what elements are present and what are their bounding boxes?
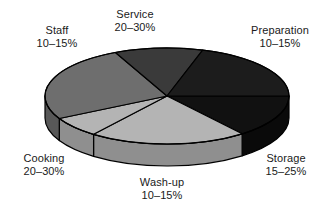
slice-label-staff: Staff 10–15%	[22, 24, 92, 50]
slice-label-cooking-name: Cooking	[6, 152, 82, 165]
slice-label-service: Service 20–30%	[96, 8, 174, 34]
slice-label-preparation-value: 10–15%	[232, 37, 328, 50]
slice-label-washup-name: Wash-up	[124, 176, 200, 189]
slice-label-service-name: Service	[96, 8, 174, 21]
slice-label-storage: Storage 15–25%	[248, 152, 324, 178]
slice-label-service-value: 20–30%	[96, 21, 174, 34]
pie-slices-group	[45, 48, 289, 166]
slice-label-staff-value: 10–15%	[22, 37, 92, 50]
slice-label-cooking-value: 20–30%	[6, 165, 82, 178]
slice-label-preparation: Preparation 10–15%	[232, 24, 328, 50]
slice-label-preparation-name: Preparation	[232, 24, 328, 37]
slice-label-storage-value: 15–25%	[248, 165, 324, 178]
slice-label-storage-name: Storage	[248, 152, 324, 165]
slice-label-staff-name: Staff	[22, 24, 92, 37]
pie-chart-page: Service 20–30% Preparation 10–15% Staff …	[0, 0, 334, 220]
slice-label-cooking: Cooking 20–30%	[6, 152, 82, 178]
slice-label-washup: Wash-up 10–15%	[124, 176, 200, 202]
slice-label-washup-value: 10–15%	[124, 189, 200, 202]
